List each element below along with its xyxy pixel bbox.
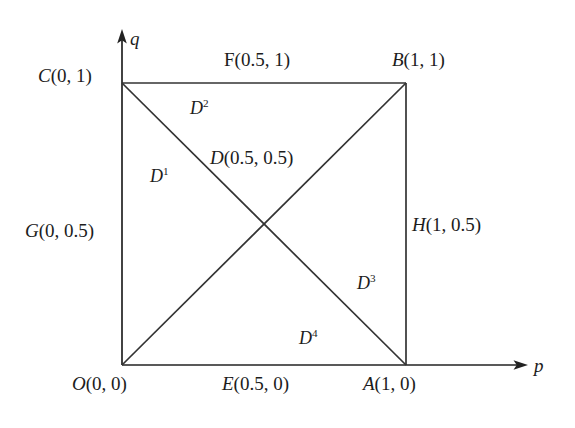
vertex-coords-d: (0.5, 0.5) xyxy=(224,147,294,168)
vertex-coords-e: (0.5, 0) xyxy=(234,373,289,394)
vertex-name-c: C xyxy=(38,65,51,86)
vertex-label-b: B(1, 1) xyxy=(392,50,445,69)
vertex-name-o: O xyxy=(72,373,86,394)
region-exponent-d1: 1 xyxy=(163,165,169,177)
vertex-name-e: E xyxy=(222,373,234,394)
region-label-d1: D1 xyxy=(150,167,169,185)
vertex-name-a: A xyxy=(363,373,375,394)
region-label-d2: D2 xyxy=(190,99,209,117)
p-axis xyxy=(122,360,528,370)
vertex-label-c: C(0, 1) xyxy=(38,66,92,85)
vertex-coords-h: (1, 0.5) xyxy=(426,214,481,235)
vertex-label-e: E(0.5, 0) xyxy=(222,374,289,393)
vertex-name-b: B xyxy=(392,49,404,70)
vertex-coords-g: (0, 0.5) xyxy=(39,220,94,241)
region-label-d4: D4 xyxy=(299,329,318,347)
vertex-label-a: A(1, 0) xyxy=(363,374,416,393)
region-base-d1: D xyxy=(150,166,163,186)
q-axis xyxy=(117,29,127,365)
region-base-d4: D xyxy=(299,328,312,348)
vertex-coords-a: (1, 0) xyxy=(375,373,416,394)
q-axis-label: q xyxy=(130,29,140,48)
vertex-name-d: D xyxy=(210,147,224,168)
vertex-name-f: F xyxy=(224,49,235,70)
vertex-coords-c: (0, 1) xyxy=(51,65,92,86)
vertex-label-d: D(0.5, 0.5) xyxy=(210,148,293,167)
region-base-d2: D xyxy=(190,98,203,118)
vertex-coords-f: (0.5, 1) xyxy=(235,49,290,70)
vertex-label-o: O(0, 0) xyxy=(72,374,127,393)
region-base-d3: D xyxy=(357,273,370,293)
geometry-figure: q p C(0, 1) F(0.5, 1) B(1, 1) D(0.5, 0.5… xyxy=(0,0,575,428)
diagonals xyxy=(122,83,406,365)
vertex-label-f: F(0.5, 1) xyxy=(224,50,290,69)
region-label-d3: D3 xyxy=(357,274,376,292)
vertex-label-h: H(1, 0.5) xyxy=(412,215,481,234)
region-exponent-d4: 4 xyxy=(312,327,318,339)
vertex-name-h: H xyxy=(412,214,426,235)
p-axis-label: p xyxy=(534,356,544,375)
vertex-coords-b: (1, 1) xyxy=(404,49,445,70)
vertex-coords-o: (0, 0) xyxy=(86,373,127,394)
region-exponent-d2: 2 xyxy=(203,97,209,109)
vertex-name-g: G xyxy=(25,220,39,241)
vertex-label-g: G(0, 0.5) xyxy=(25,221,94,240)
region-exponent-d3: 3 xyxy=(370,272,376,284)
